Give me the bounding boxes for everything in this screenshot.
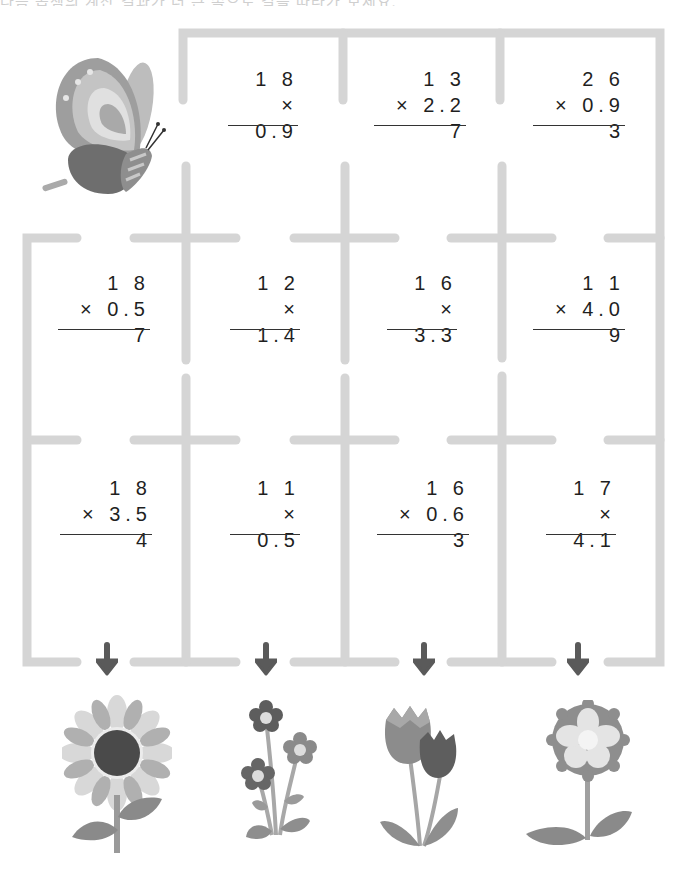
multiplicand: 1 1	[230, 475, 300, 501]
multiplicand: 1 2	[230, 270, 300, 296]
problem-r3c1: 1 8 × 3.5 4	[60, 475, 152, 527]
problem-r2c4: 1 1 × 4.0 9	[533, 270, 625, 322]
multiplicand: 1 8	[58, 270, 150, 296]
answer-line	[230, 329, 300, 331]
problem-r2c2: 1 2 × 1.4	[230, 270, 300, 322]
answer-line	[60, 534, 152, 536]
problem-r1c2: 1 8 × 0.9	[228, 66, 298, 118]
multiplier: × 4.1	[546, 501, 616, 527]
answer-line	[228, 125, 298, 127]
multiplier: × 0.6 3	[377, 501, 469, 527]
multiplier: × 3.3	[387, 296, 457, 322]
problem-r3c4: 1 7 × 4.1	[546, 475, 616, 527]
problem-r1c4: 2 6 × 0.9 3	[533, 66, 625, 118]
multiplier: × 1.4	[230, 296, 300, 322]
answer-line	[387, 329, 457, 331]
multiplicand: 1 7	[546, 475, 616, 501]
butterfly-icon	[38, 48, 168, 198]
problem-r3c3: 1 6 × 0.6 3	[377, 475, 469, 527]
answer-line	[377, 534, 469, 536]
multiplier: × 3.5 4	[60, 501, 152, 527]
multiplicand: 2 6	[533, 66, 625, 92]
multiplicand: 1 3	[374, 66, 466, 92]
answer-line	[374, 125, 466, 127]
multiplier: × 0.5	[230, 501, 300, 527]
multiplier: × 0.5 7	[58, 296, 150, 322]
down-arrow-icon	[567, 642, 589, 678]
problem-r1c3: 1 3 × 2.2 7	[374, 66, 466, 118]
down-arrow-icon	[255, 642, 277, 678]
multiplicand: 1 8	[228, 66, 298, 92]
multiplicand: 1 8	[60, 475, 152, 501]
round-bloom-flower-icon	[526, 700, 636, 850]
multiplicand: 1 1	[533, 270, 625, 296]
answer-line	[533, 329, 625, 331]
multiplicand: 1 6	[387, 270, 457, 296]
multiplier: × 0.9	[228, 92, 298, 118]
multiplier: × 0.9 3	[533, 92, 625, 118]
answer-line	[58, 329, 150, 331]
sunflower-icon	[62, 695, 172, 855]
small-flower-bunch-icon	[240, 695, 320, 845]
multiplier: × 2.2 7	[374, 92, 466, 118]
multiplier: × 4.0 9	[533, 296, 625, 322]
answer-line	[533, 125, 625, 127]
down-arrow-icon	[413, 642, 435, 678]
problem-r2c1: 1 8 × 0.5 7	[58, 270, 150, 322]
down-arrow-icon	[96, 642, 118, 678]
multiplicand: 1 6	[377, 475, 469, 501]
problem-r2c3: 1 6 × 3.3	[387, 270, 457, 322]
tulips-icon	[380, 698, 470, 848]
problem-r3c2: 1 1 × 0.5	[230, 475, 300, 527]
answer-line	[546, 534, 616, 536]
answer-line	[230, 534, 300, 536]
